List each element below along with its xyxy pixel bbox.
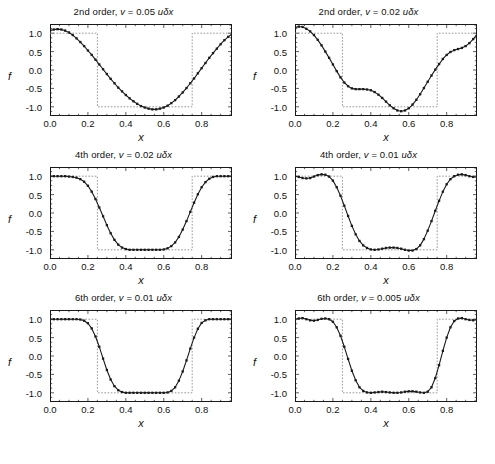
data-point-marker: [128, 97, 130, 99]
data-point-marker: [102, 68, 104, 70]
data-point-marker: [231, 175, 232, 177]
data-point-marker: [305, 177, 307, 179]
data-point-marker: [125, 94, 127, 96]
data-point-marker: [102, 357, 104, 359]
plot-area: [295, 167, 477, 259]
data-point-marker: [216, 175, 218, 177]
y-tick-label: -1.0: [26, 101, 42, 112]
data-point-marker: [201, 67, 203, 69]
data-point-marker: [434, 210, 436, 212]
data-point-marker: [457, 317, 459, 319]
plot-area: [295, 24, 477, 116]
data-point-marker: [189, 347, 191, 349]
data-point-marker: [197, 193, 199, 195]
data-point-marker: [151, 249, 153, 251]
data-point-marker: [117, 243, 119, 245]
data-point-marker: [298, 25, 300, 27]
x-tick-label: 0.8: [195, 261, 208, 272]
data-point-marker: [453, 320, 455, 322]
data-point-marker: [415, 248, 417, 250]
x-tick-label: 0.8: [195, 118, 208, 129]
data-point-marker: [453, 49, 455, 51]
data-point-marker: [461, 173, 463, 175]
data-point-marker: [408, 107, 410, 109]
data-point-marker: [91, 191, 93, 193]
data-point-marker: [193, 336, 195, 338]
x-tick-label: 0.2: [326, 404, 339, 415]
x-axis-tick-labels: 0.00.20.40.60.8: [50, 261, 232, 275]
data-point-marker: [392, 246, 394, 248]
data-point-marker: [328, 175, 330, 177]
y-tick-label: -1.0: [271, 387, 287, 398]
data-point-marker: [427, 391, 429, 393]
data-point-marker: [381, 97, 383, 99]
data-point-marker: [106, 369, 108, 371]
x-tick-label: 0.8: [440, 404, 453, 415]
data-point-marker: [174, 386, 176, 388]
data-point-marker: [212, 52, 214, 54]
data-point-marker: [351, 370, 353, 372]
data-point-marker: [212, 318, 214, 320]
data-point-marker: [201, 186, 203, 188]
data-point-marker: [147, 249, 149, 251]
data-point-marker: [170, 245, 172, 247]
x-tick-label: 0.8: [440, 118, 453, 129]
data-point-marker: [377, 248, 379, 250]
data-point-marker: [358, 88, 360, 90]
x-tick-label: 0.6: [157, 404, 170, 415]
data-point-marker: [461, 317, 463, 319]
curve-canvas: [50, 24, 232, 116]
data-point-marker: [178, 95, 180, 97]
data-point-marker: [144, 249, 146, 251]
data-point-marker: [476, 176, 477, 178]
y-tick-label: 1.0: [274, 171, 287, 182]
y-tick-label: 1.0: [29, 314, 42, 325]
data-point-marker: [231, 33, 232, 35]
y-tick-label: -0.5: [26, 83, 42, 94]
data-point-marker: [370, 248, 372, 250]
data-point-marker: [121, 90, 123, 92]
data-point-marker: [411, 103, 413, 105]
x-axis-label: x: [295, 131, 477, 143]
data-point-marker: [83, 45, 85, 47]
data-point-marker: [132, 100, 134, 102]
data-point-marker: [313, 320, 315, 322]
data-point-marker: [392, 107, 394, 109]
plot-panel: 6th order, v = 0.005 uδx1.00.50.0-0.5-1.…: [245, 286, 492, 441]
data-point-marker: [430, 386, 432, 388]
data-point-marker: [75, 37, 77, 39]
data-point-marker: [343, 346, 345, 348]
data-point-marker: [362, 88, 364, 90]
data-point-marker: [339, 335, 341, 337]
data-point-marker: [355, 233, 357, 235]
reference-curve: [50, 176, 232, 250]
data-point-marker: [193, 202, 195, 204]
data-point-marker: [166, 247, 168, 249]
data-point-marker: [60, 175, 62, 177]
data-point-marker: [472, 176, 474, 178]
x-axis-label: x: [50, 131, 232, 143]
data-point-marker: [75, 318, 77, 320]
panel-title: 6th order, v = 0.005 uδx: [245, 292, 492, 303]
data-point-marker: [313, 34, 315, 36]
data-point-marker: [373, 391, 375, 393]
panel-title: 4th order, v = 0.01 uδx: [245, 149, 492, 160]
data-point-marker: [317, 174, 319, 176]
data-point-marker: [68, 31, 70, 33]
data-point-marker: [449, 326, 451, 328]
data-point-marker: [464, 45, 466, 47]
plot-area: [50, 24, 232, 116]
y-tick-label: 0.0: [274, 351, 287, 362]
y-tick-label: -0.5: [271, 226, 287, 237]
data-point-marker: [392, 392, 394, 394]
data-point-marker: [423, 238, 425, 240]
data-point-marker: [351, 225, 353, 227]
data-point-marker: [178, 380, 180, 382]
data-point-marker: [87, 49, 89, 51]
data-point-marker: [408, 390, 410, 392]
y-tick-label: 0.5: [29, 332, 42, 343]
x-tick-label: 0.2: [81, 118, 94, 129]
x-tick-label: 0.0: [288, 404, 301, 415]
curve-canvas: [295, 310, 477, 402]
data-point-marker: [423, 392, 425, 394]
